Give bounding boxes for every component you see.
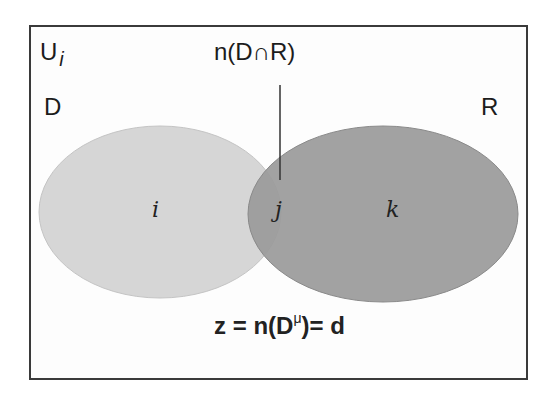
universe-label: Ui (40, 38, 64, 66)
region-k-label: k (386, 197, 399, 222)
set-d-label: D (44, 93, 61, 121)
formula: z = n(Dμ)= d (0, 312, 559, 340)
formula-superscript: μ (293, 310, 301, 326)
universe-subscript: i (59, 48, 63, 70)
intersection-label: n(D∩R) (214, 38, 295, 66)
set-d-ellipse (39, 126, 281, 298)
region-j-label: j (275, 197, 282, 222)
region-i-label: i (152, 197, 159, 222)
set-r-label: R (481, 93, 498, 121)
set-r-ellipse (248, 126, 518, 302)
